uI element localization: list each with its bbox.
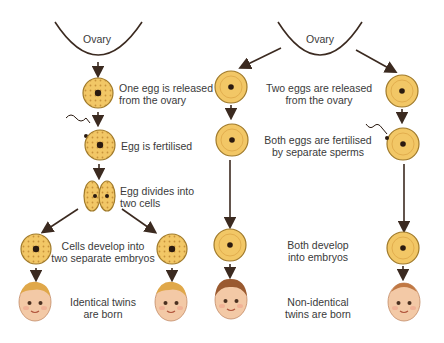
fertilised-egg-2-icon [387,128,419,160]
non-identical-twin-baby-1 [215,279,247,319]
fertilised-egg-1-icon [216,124,248,156]
left-step5-label: Identical twins are born [60,296,146,320]
embryo-2-icon [387,232,419,264]
left-step4-label: Cells develop into two separate embryos [50,240,156,264]
twins-diagram [0,0,444,343]
left-step3-label: Egg divides into two cells [120,185,194,209]
right-step4-label: Non-identical twins are born [268,296,368,320]
non-identical-twin-baby-2 [388,283,420,321]
embryo-egg-right-icon [157,234,187,264]
right-ovary-label: Ovary [306,33,334,45]
left-ovary-label: Ovary [83,33,111,45]
right-step3-label: Both develop into embryos [268,239,368,263]
embryo-1-icon [214,229,246,261]
right-step2-label: Both eggs are fertilised by separate spe… [254,134,382,158]
embryo-egg-left-icon [21,234,51,264]
identical-twin-baby-2 [155,282,187,321]
single-egg-icon [83,78,113,108]
left-step2-label: Egg is fertilised [121,140,192,152]
fertilised-egg-icon [85,130,115,160]
right-step1-label: Two eggs are released from the ovary [256,82,382,106]
dividing-egg-icon [84,181,115,211]
identical-twin-baby-1 [19,282,51,321]
egg-2-icon [386,75,418,107]
egg-1-icon [215,71,247,103]
left-step1-label: One egg is released from the ovary [119,82,213,106]
